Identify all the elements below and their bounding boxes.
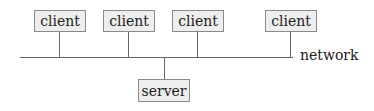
client-4-connector — [290, 32, 291, 57]
server-connector — [164, 57, 165, 79]
network-label: network — [300, 47, 359, 63]
server-node: server — [138, 79, 190, 102]
client-node-4: client — [265, 10, 317, 32]
client-server-diagram: network client client client client serv… — [0, 0, 374, 111]
client-1-connector — [59, 32, 60, 57]
client-node-3: client — [172, 10, 224, 32]
client-3-connector — [197, 32, 198, 57]
client-node-2: client — [103, 10, 155, 32]
client-2-connector — [128, 32, 129, 57]
network-line — [20, 57, 293, 58]
client-node-1: client — [34, 10, 86, 32]
